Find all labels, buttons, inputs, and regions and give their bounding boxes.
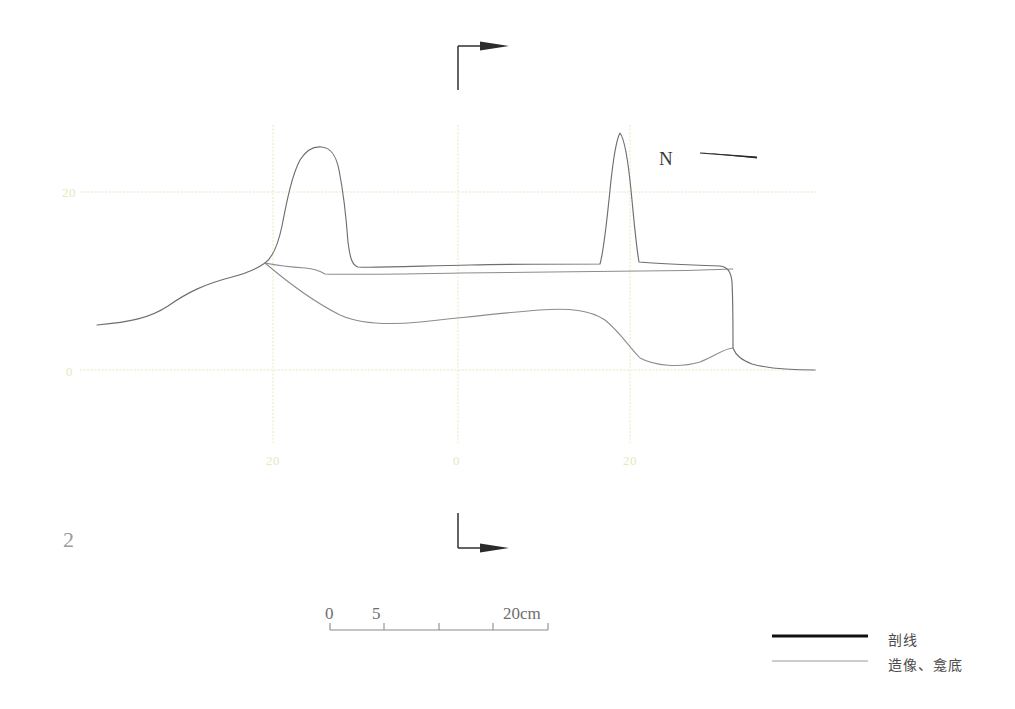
north-label: N bbox=[659, 148, 673, 170]
top-section-marker bbox=[458, 42, 509, 91]
scale-bar bbox=[330, 623, 548, 630]
axis-tick-label-horizontal-left-20: 20 bbox=[266, 453, 280, 469]
legend-label-statue: 造像、龛底 bbox=[888, 654, 963, 674]
axis-tick-label-vertical-0: 0 bbox=[66, 364, 73, 380]
grid-vertical-lines bbox=[273, 125, 630, 443]
bottom-section-marker bbox=[458, 513, 509, 553]
figure-number: 2 bbox=[63, 527, 74, 553]
axis-tick-label-horizontal-center-0: 0 bbox=[453, 453, 460, 469]
scale-label-zero: 0 bbox=[325, 604, 334, 624]
bottom-section-marker-arrowhead-icon bbox=[480, 544, 509, 553]
profile-drawing-canvas bbox=[0, 0, 1015, 709]
niche-base-line bbox=[265, 263, 733, 365]
grid-horizontal-lines bbox=[80, 192, 816, 370]
scale-label-five: 5 bbox=[372, 604, 381, 624]
axis-tick-label-horizontal-right-20: 20 bbox=[623, 453, 637, 469]
axis-tick-label-vertical-20: 20 bbox=[62, 185, 76, 201]
figure-root: 20 0 20 0 20 N 2 0 5 20cm 剖线 造像、龛底 bbox=[0, 0, 1015, 709]
top-section-marker-arrowhead-icon bbox=[480, 42, 509, 51]
legend-label-profile: 剖线 bbox=[888, 629, 918, 649]
north-arrow-icon bbox=[700, 153, 757, 159]
outer-profile-line bbox=[97, 133, 815, 370]
north-arrow-shaft bbox=[700, 153, 757, 158]
scale-label-max: 20cm bbox=[503, 604, 541, 624]
legend-swatches bbox=[772, 636, 868, 661]
